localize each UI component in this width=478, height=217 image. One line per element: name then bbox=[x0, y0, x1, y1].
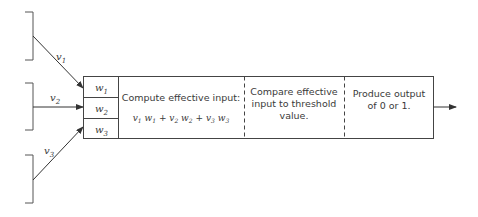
input-label-2: v2 bbox=[50, 92, 61, 106]
input-label-1: v1 bbox=[56, 51, 66, 65]
stage-compare-line-2: input to threshold bbox=[252, 98, 337, 109]
weight-label-3: w3 bbox=[95, 124, 109, 138]
input-arrow-3 bbox=[33, 127, 83, 180]
perceptron-diagram: v1 v2 v3 w1 w2 w3 Compute effective inpu… bbox=[0, 0, 478, 217]
input-arrow-1 bbox=[33, 36, 83, 88]
input-label-3: v3 bbox=[44, 145, 55, 159]
input-bracket-1 bbox=[25, 12, 33, 60]
weight-label-2: w2 bbox=[95, 103, 109, 117]
stage-compare-line-3: value. bbox=[280, 110, 309, 121]
stage-compare-line-1: Compare effective bbox=[250, 86, 338, 97]
stage-output-line-1: Produce output bbox=[353, 88, 426, 99]
input-bracket-3 bbox=[25, 155, 33, 203]
input-bracket-2 bbox=[25, 83, 33, 130]
weight-label-1: w1 bbox=[95, 82, 108, 96]
stage-output-line-2: of 0 or 1. bbox=[367, 100, 410, 111]
stage-compute-formula: v1 w1 + v2 w2 + v3 w3 bbox=[133, 113, 230, 124]
stage-compute-label: Compute effective input: bbox=[122, 92, 240, 103]
